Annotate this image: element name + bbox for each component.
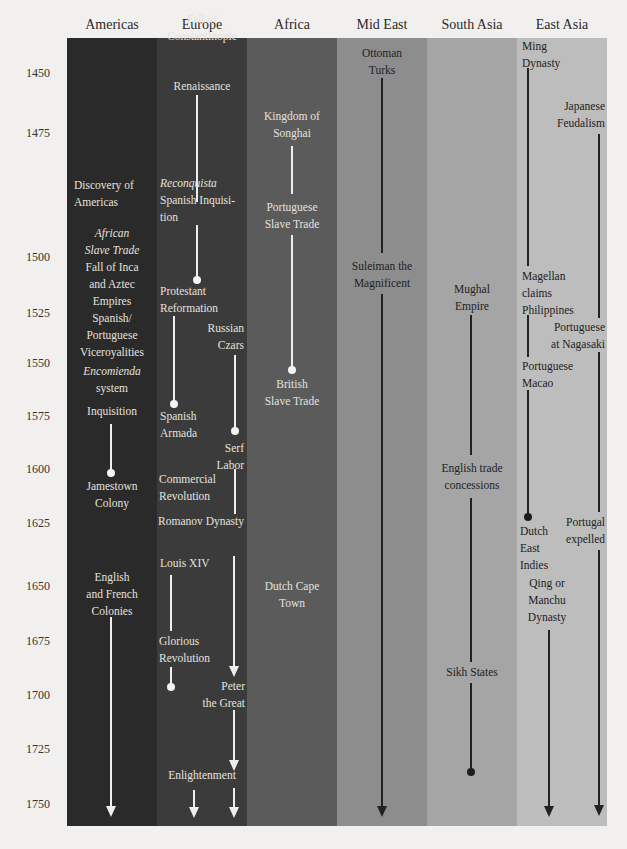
header-east-asia: East Asia: [517, 17, 607, 37]
event-discovery-of-americas: Discovery ofAmericas: [74, 177, 134, 211]
event-japanese-feudalism: JapaneseFeudalism: [517, 98, 605, 132]
timeline-line: [110, 617, 112, 807]
year-label: 1625: [0, 516, 50, 531]
timeline-line: [233, 556, 235, 668]
event-qing-manchu-dynasty: Qing orManchuDynasty: [517, 575, 577, 626]
timeline-line: [598, 352, 600, 512]
year-label: 1475: [0, 126, 50, 141]
timeline-line: [548, 630, 550, 808]
event-jamestown-colony: JamestownColony: [67, 478, 157, 512]
event-portugal-expelled: Portugalexpelled: [517, 514, 605, 548]
event-fall-of-constantinople: Fall ofConstantinople: [157, 11, 247, 45]
column-americas: [67, 38, 157, 826]
event-portuguese-at-nagasaki: Portugueseat Nagasaki: [517, 319, 605, 353]
event-british-slave-trade: BritishSlave Trade: [247, 376, 337, 410]
endpoint-dot: [288, 366, 296, 374]
year-label: 1650: [0, 579, 50, 594]
header-africa: Africa: [247, 17, 337, 37]
event-renaissance: Renaissance: [157, 78, 247, 95]
header-mid-east: Mid East: [337, 17, 427, 37]
endpoint-dot: [231, 427, 239, 435]
endpoint-dot: [107, 469, 115, 477]
year-label: 1450: [0, 66, 50, 81]
year-label: 1750: [0, 797, 50, 812]
arrow-down-icon: [229, 666, 239, 677]
event-portuguese-macao: PortugueseMacao: [522, 358, 573, 392]
endpoint-dot: [170, 400, 178, 408]
arrow-down-icon: [377, 806, 387, 817]
arrow-down-icon: [189, 807, 199, 818]
timeline-line: [196, 225, 198, 281]
event-viceroyalities: Spanish/PortugueseViceroyalities: [67, 310, 157, 361]
arrow-down-icon: [229, 807, 239, 818]
event-english-trade-concessions: English tradeconcessions: [427, 460, 517, 494]
event-commercial-revolution: CommercialRevolution: [159, 471, 216, 505]
year-label: 1550: [0, 356, 50, 371]
event-kingdom-of-songhai: Kingdom ofSonghai: [247, 108, 337, 142]
arrow-down-icon: [544, 806, 554, 817]
timeline-line: [598, 550, 600, 807]
timeline-line: [234, 469, 236, 514]
event-romanov-dynasty: Romanov Dynasty: [155, 513, 247, 530]
endpoint-dot: [467, 768, 475, 776]
event-ottoman-turks: OttomanTurks: [337, 45, 427, 79]
event-fall-of-inca-aztec: Fall of Incaand AztecEmpires: [67, 259, 157, 310]
event-african-slave-trade: AfricanSlave Trade: [67, 225, 157, 259]
timeline-line: [527, 390, 529, 516]
timeline-line: [110, 424, 112, 472]
year-label: 1575: [0, 409, 50, 424]
year-label: 1500: [0, 250, 50, 265]
event-glorious-revolution: GloriousRevolution: [159, 633, 210, 667]
timeline-line: [470, 498, 472, 662]
event-english-french-colonies: Englishand FrenchColonies: [67, 569, 157, 620]
timeline-line: [291, 235, 293, 370]
header-americas: Americas: [67, 17, 157, 37]
event-mughal-empire: MughalEmpire: [427, 281, 517, 315]
timeline-line: [381, 294, 383, 808]
timeline-line: [233, 788, 235, 808]
year-label: 1600: [0, 462, 50, 477]
event-russian-czars: RussianCzars: [157, 320, 244, 354]
timeline-line: [170, 575, 172, 631]
event-inquisition: Inquisition: [67, 403, 157, 420]
timeline-line: [598, 134, 600, 318]
event-suleiman-the-magnificent: Suleiman theMagnificent: [337, 258, 427, 292]
column-south-asia: [427, 38, 517, 826]
event-reconquista: Reconquista: [160, 175, 217, 192]
event-magellan-claims-philippines: MagellanclaimsPhilippines: [522, 268, 574, 319]
year-label: 1725: [0, 742, 50, 757]
year-label: 1700: [0, 688, 50, 703]
event-spanish-armada: SpanishArmada: [160, 408, 197, 442]
timeline-line: [470, 315, 472, 455]
event-ming-dynasty: MingDynasty: [522, 38, 560, 72]
event-dutch-cape-town: Dutch CapeTown: [247, 578, 337, 612]
timeline-line: [470, 683, 472, 771]
event-louis-xiv: Louis XIV: [160, 555, 210, 572]
event-peter-the-great: Peterthe Great: [157, 678, 245, 712]
event-protestant-reformation: ProtestantReformation: [160, 283, 218, 317]
event-serf-labor: SerfLabor: [157, 440, 244, 474]
event-sikh-states: Sikh States: [427, 664, 517, 681]
event-encomienda-system: Encomiendasystem: [67, 363, 157, 397]
header-south-asia: South Asia: [427, 17, 517, 37]
year-label: 1525: [0, 306, 50, 321]
event-enlightenment: Enlightenment: [157, 767, 247, 784]
arrow-down-icon: [594, 805, 604, 816]
event-spanish-inquisition: Spanish Inquisi-tion: [160, 192, 235, 226]
year-label: 1675: [0, 634, 50, 649]
timeline-line: [193, 790, 195, 808]
timeline-line: [234, 355, 236, 431]
event-portuguese-slave-trade: PortugueseSlave Trade: [247, 199, 337, 233]
timeline-line: [381, 78, 383, 253]
column-east-asia: [517, 38, 607, 826]
timeline-line: [291, 146, 293, 194]
timeline-line: [233, 710, 235, 762]
arrow-down-icon: [106, 806, 116, 817]
